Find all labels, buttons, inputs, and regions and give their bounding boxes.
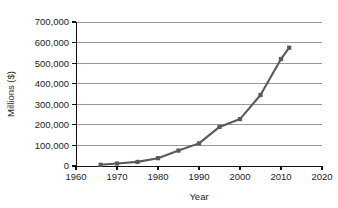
data-point-marker (279, 57, 283, 61)
y-tick-label: 0 (64, 160, 69, 171)
data-point-markers (99, 46, 292, 167)
x-tick-label: 1980 (147, 171, 168, 182)
x-tick-label: 1990 (188, 171, 209, 182)
data-point-marker (238, 117, 242, 121)
y-tick-label: 500,000 (35, 58, 69, 69)
data-series-line (101, 48, 290, 165)
y-tick-label: 100,000 (35, 140, 69, 151)
chart-svg: 0100,000200,000300,000400,000500,000600,… (0, 0, 338, 208)
data-point-marker (156, 156, 160, 160)
data-point-marker (115, 161, 119, 165)
y-tick-label: 700,000 (35, 16, 69, 27)
y-axis-ticks (72, 22, 76, 166)
data-point-marker (258, 93, 262, 97)
y-tick-label: 200,000 (35, 119, 69, 130)
y-tick-label: 300,000 (35, 99, 69, 110)
x-axis-title: Year (189, 191, 208, 202)
x-tick-label: 1960 (65, 171, 86, 182)
x-tick-label: 2010 (270, 171, 291, 182)
line-chart: 0100,000200,000300,000400,000500,000600,… (0, 0, 338, 208)
data-point-marker (197, 141, 201, 145)
y-tick-label: 600,000 (35, 37, 69, 48)
x-tick-label: 2020 (311, 171, 332, 182)
y-tick-labels: 0100,000200,000300,000400,000500,000600,… (35, 16, 69, 171)
data-point-marker (217, 125, 221, 129)
data-point-marker (176, 148, 180, 152)
y-axis-title: Millions ($) (5, 71, 16, 117)
data-point-marker (287, 46, 291, 50)
gridlines (76, 22, 322, 145)
data-point-marker (99, 163, 103, 167)
x-tick-label: 2000 (229, 171, 250, 182)
x-tick-labels: 1960197019801990200020102020 (65, 171, 332, 182)
data-point-marker (135, 160, 139, 164)
y-tick-label: 400,000 (35, 78, 69, 89)
x-tick-label: 1970 (106, 171, 127, 182)
